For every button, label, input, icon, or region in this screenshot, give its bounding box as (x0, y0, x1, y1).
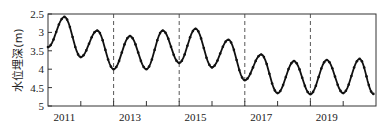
data-point (276, 92, 279, 95)
data-point (159, 32, 162, 35)
data-point (162, 29, 165, 32)
data-point (145, 68, 148, 71)
data-point (121, 51, 124, 54)
data-point (69, 26, 72, 29)
data-point (260, 53, 263, 56)
data-point (203, 47, 206, 50)
data-point (293, 60, 296, 63)
data-point (90, 36, 93, 39)
data-point (107, 58, 110, 61)
data-point (148, 65, 151, 68)
data-point (339, 90, 342, 93)
data-point (271, 82, 274, 85)
data-point (142, 66, 145, 69)
data-point (60, 18, 63, 21)
data-point (304, 85, 307, 88)
data-point (110, 65, 113, 68)
data-point (279, 90, 282, 93)
data-point (328, 61, 331, 64)
data-point (326, 59, 329, 62)
data-point (306, 91, 309, 94)
data-point (49, 44, 52, 47)
data-point (170, 46, 173, 49)
data-point (216, 59, 219, 62)
data-point (88, 43, 91, 46)
data-point (123, 43, 126, 46)
data-point (200, 37, 203, 40)
data-point (263, 56, 266, 59)
data-point (295, 62, 298, 65)
data-point (331, 67, 334, 70)
data-point (211, 66, 214, 69)
data-point (167, 37, 170, 40)
data-point (80, 56, 83, 59)
data-point (368, 84, 371, 87)
data-point (126, 37, 129, 40)
x-tick-label: 2019 (316, 111, 339, 123)
data-point (85, 49, 88, 52)
data-point (96, 29, 99, 32)
data-line (48, 17, 373, 94)
y-tick-label: 4 (39, 63, 45, 75)
line-chart: 2.533.544.5520112013201520172019水位埋深(m) (0, 0, 388, 135)
data-point (347, 83, 350, 86)
data-point (235, 59, 238, 62)
data-point (353, 66, 356, 69)
data-point (285, 76, 288, 79)
data-point (71, 36, 74, 39)
data-point (66, 18, 69, 21)
data-point (227, 39, 230, 42)
data-point (345, 90, 348, 93)
data-point (82, 54, 85, 57)
y-tick-label: 2.5 (30, 8, 44, 20)
data-point (153, 49, 156, 52)
data-point (63, 16, 66, 19)
y-tick-label: 4.5 (30, 82, 44, 94)
data-point (363, 66, 366, 69)
data-point (115, 66, 118, 69)
data-point (370, 90, 373, 93)
data-point (350, 75, 353, 78)
data-point (52, 38, 55, 41)
y-tick-label: 3.5 (30, 45, 44, 57)
data-point (282, 84, 285, 87)
data-point (317, 76, 320, 79)
y-axis-label: 水位埋深(m) (11, 28, 25, 91)
data-point (197, 30, 200, 33)
plot-area: 2.533.544.5520112013201520172019水位埋深(m) (11, 8, 376, 123)
data-point (342, 92, 345, 95)
data-point (93, 31, 96, 34)
data-point (274, 89, 277, 92)
data-point (183, 53, 186, 56)
data-point (134, 43, 137, 46)
data-point (181, 59, 184, 62)
data-point (112, 68, 115, 71)
data-point (257, 55, 260, 58)
data-point (205, 56, 208, 59)
data-point (151, 58, 154, 61)
data-point (77, 53, 80, 56)
data-point (137, 51, 140, 54)
data-point (241, 76, 244, 79)
data-point (356, 60, 359, 63)
data-point (129, 35, 132, 38)
x-tick-label: 2015 (185, 111, 208, 123)
data-point (47, 46, 50, 49)
data-point (233, 49, 236, 52)
data-point (213, 64, 216, 67)
data-point (372, 93, 375, 96)
data-point (290, 62, 293, 65)
data-point (312, 91, 315, 94)
data-point (230, 41, 233, 44)
data-point (175, 60, 178, 63)
data-point (118, 60, 121, 63)
data-point (224, 40, 227, 43)
data-point (140, 60, 143, 63)
data-point (178, 62, 181, 65)
data-point (358, 58, 361, 61)
data-point (131, 37, 134, 40)
data-point (323, 61, 326, 64)
data-point (365, 75, 368, 78)
data-point (74, 46, 77, 49)
x-tick-label: 2013 (119, 111, 142, 123)
